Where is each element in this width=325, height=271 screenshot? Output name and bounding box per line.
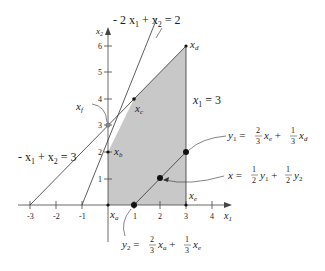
y-tick-label: 3 xyxy=(98,121,102,130)
annotation-x-frac1-den: 2 xyxy=(252,176,256,185)
x-tick-label: -3 xyxy=(27,212,34,221)
label-xd: xd xyxy=(189,38,199,52)
vertex-xf xyxy=(106,123,110,127)
annotation-y1-frac2-num: 1 xyxy=(291,126,295,135)
annotation-y1: y1 = xyxy=(227,129,245,143)
y-tick-label: 4 xyxy=(98,95,102,104)
annotation-y2-frac1-num: 2 xyxy=(150,235,154,244)
vertex-xc xyxy=(132,97,136,101)
annotation-y2-frac2-num: 1 xyxy=(185,235,189,244)
label-xe: xe xyxy=(188,189,197,203)
leader-xf xyxy=(92,104,107,122)
annotation-y1-frac2-den: 3 xyxy=(291,137,295,146)
y-axis-label: x2 xyxy=(95,26,103,37)
vertex-xe xyxy=(184,203,187,206)
annotation-x: x = xyxy=(227,169,242,181)
vertex-xb xyxy=(106,150,109,153)
annotation-y2-term2: xe xyxy=(192,238,201,252)
x-tick-label: -1 xyxy=(79,212,86,221)
x-axis-arrow-icon xyxy=(224,202,232,208)
y-tick-label: 5 xyxy=(98,68,102,77)
annotation-y1-frac1-num: 2 xyxy=(256,126,260,135)
vertex-xa xyxy=(106,203,109,206)
feasible-region xyxy=(108,46,186,205)
x-tick-label: 3 xyxy=(184,212,188,221)
annotation-x-frac1-num: 1 xyxy=(252,165,256,174)
y-tick-label: 6 xyxy=(98,42,102,51)
point-y2 xyxy=(131,202,137,208)
leader-y1 xyxy=(189,136,226,150)
line-label-negx1-plus-x2: - x1 + x2 = 3 xyxy=(18,150,77,166)
annotation-y1-term2: xd xyxy=(298,129,308,143)
point-x xyxy=(157,175,163,181)
annotation-y2: y2 = xyxy=(121,238,139,252)
x-tick-label: -2 xyxy=(53,212,60,221)
annotation-y1-term1: xe + xyxy=(263,129,281,143)
line-label-x1-eq-3: x1 = 3 xyxy=(192,93,221,109)
x-tick-label: 4 xyxy=(210,212,214,221)
annotation-y2-term1: xa + xyxy=(157,238,175,252)
x-tick-label: 1 xyxy=(133,212,137,221)
annotation-x-frac2-den: 2 xyxy=(286,176,290,185)
vertex-xd xyxy=(184,44,187,47)
annotation-x-term2: y2 xyxy=(293,169,303,183)
line-label-neg2x1-plus-x2: - 2 x1 + x2 = 2 xyxy=(113,13,181,29)
y-tick-label: 1 xyxy=(98,175,102,184)
label-xf: xf xyxy=(75,100,84,114)
feasible-region-diagram: -3 -2 -1 1 2 3 4 x1 1 2 3 4 5 6 x2 - 2 x… xyxy=(0,0,325,271)
leader-y2 xyxy=(123,209,131,236)
annotation-y2-frac1-den: 3 xyxy=(150,246,154,255)
point-y1 xyxy=(183,149,189,155)
annotation-x-frac2-num: 1 xyxy=(286,165,290,174)
annotation-y1-frac1-den: 3 xyxy=(256,137,260,146)
x-axis-label: x1 xyxy=(223,210,232,223)
annotation-x-term1: y1 + xyxy=(259,169,277,183)
y-axis-arrow-icon xyxy=(105,27,111,35)
x-tick-label: 2 xyxy=(158,212,162,221)
diagram-canvas: -3 -2 -1 1 2 3 4 x1 1 2 3 4 5 6 x2 - 2 x… xyxy=(0,0,325,271)
annotation-y2-frac2-den: 3 xyxy=(185,246,189,255)
leader-line1 xyxy=(156,28,162,38)
label-xa: xa xyxy=(109,208,119,222)
